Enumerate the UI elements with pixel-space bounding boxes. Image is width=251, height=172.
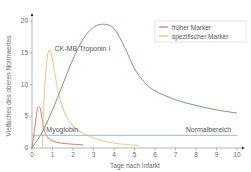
x-tick-label: 3 (92, 151, 96, 158)
y-axis: 05101520 (21, 13, 34, 151)
x-axis-title: Tage nach Infarkt (110, 162, 160, 170)
curve-label: Myoglobin (46, 126, 78, 134)
x-tick-label: 0 (30, 151, 34, 158)
x-tick-label: 6 (153, 151, 157, 158)
x-axis-arrow-icon (242, 147, 245, 150)
x-tick-label: 10 (233, 151, 241, 158)
y-tick-label: 5 (24, 112, 28, 119)
legend: früher Marker spezifischer Marker (155, 21, 246, 42)
y-tick-label: 20 (21, 17, 29, 24)
legend-label-early: früher Marker (172, 24, 212, 31)
x-tick-label: 1 (51, 151, 55, 158)
marker-chart: 05101520 012345678910 CK-MBTroponin IMyo… (0, 0, 251, 172)
y-tick-label: 10 (21, 81, 29, 88)
curve-label: Normalbereich (186, 126, 232, 133)
annotations: CK-MBTroponin IMyoglobinNormalbereich (46, 45, 231, 134)
legend-label-specific: spezifischer Marker (172, 33, 229, 41)
x-axis: 012345678910 (30, 147, 245, 158)
x-tick-label: 7 (174, 151, 178, 158)
curve-label: CK-MB (55, 45, 78, 52)
y-tick-label: 0 (24, 144, 28, 151)
x-tick-label: 4 (112, 151, 116, 158)
y-axis-arrow-icon (31, 13, 34, 16)
y-tick-label: 15 (21, 49, 29, 56)
y-axis-title: Vielfaches des oberen Normwertes (5, 35, 12, 137)
x-tick-label: 5 (133, 151, 137, 158)
x-tick-label: 8 (194, 151, 198, 158)
x-tick-label: 2 (71, 151, 75, 158)
x-tick-label: 9 (215, 151, 219, 158)
curve-label: Troponin I (79, 45, 110, 53)
